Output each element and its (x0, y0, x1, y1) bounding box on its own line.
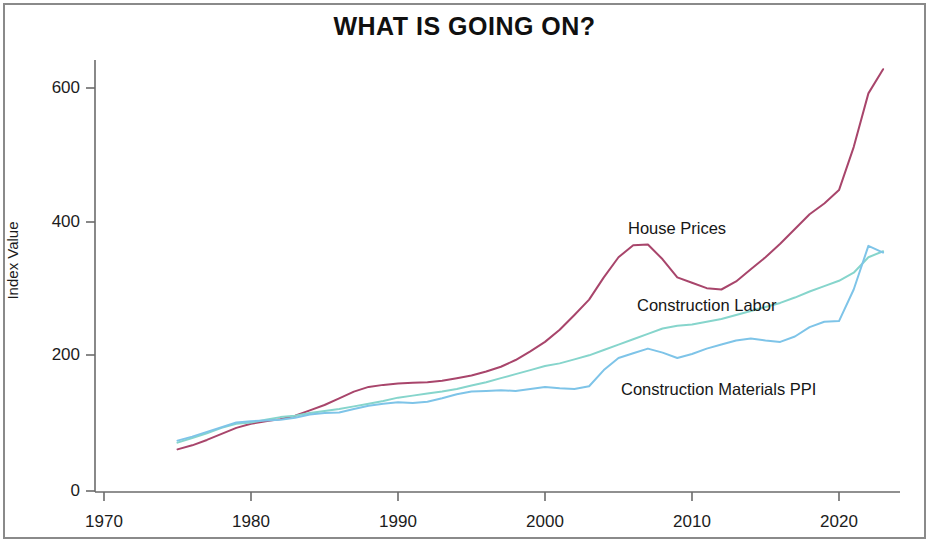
series-label-construction-labor: Construction Labor (637, 296, 776, 315)
series-line-construction-labor (178, 251, 884, 442)
series-label-house-prices: House Prices (628, 219, 726, 238)
series-line-construction-materials-ppi (178, 246, 884, 441)
chart-page: WHAT IS GOING ON? Index Value 600 400 20… (0, 0, 929, 542)
plot-area (0, 0, 929, 542)
series-label-construction-materials-ppi: Construction Materials PPI (621, 380, 816, 399)
